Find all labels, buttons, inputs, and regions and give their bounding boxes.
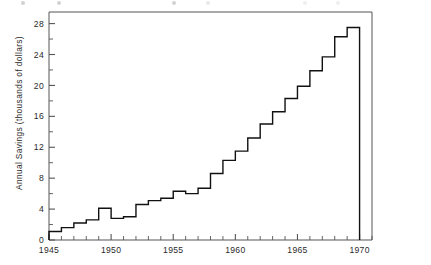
x-axis-ticks: 194519501955196019651970 [39, 234, 372, 255]
y-axis-ticks: 0481216202428 [34, 19, 55, 245]
y-tick-label: 4 [39, 204, 44, 214]
axes-frame [49, 12, 372, 240]
x-tick-label: 1945 [39, 245, 59, 255]
x-tick-label: 1950 [101, 245, 121, 255]
y-tick-label: 8 [39, 173, 44, 183]
x-tick-label: 1960 [225, 245, 245, 255]
y-tick-label: 24 [34, 50, 44, 60]
y-tick-label: 20 [34, 81, 44, 91]
y-tick-label: 12 [34, 142, 44, 152]
x-tick-label: 1965 [287, 245, 307, 255]
x-tick-label: 1970 [349, 245, 369, 255]
annual-savings-figure: Annual Savings (thousands of dollars) 19… [0, 0, 431, 265]
y-tick-label: 0 [39, 235, 44, 245]
x-tick-label: 1955 [163, 245, 183, 255]
chart-plot-area: 1945195019551960196519700481216202428 [0, 0, 431, 265]
y-tick-label: 28 [34, 19, 44, 29]
step-series-annual-savings [49, 27, 360, 240]
y-tick-label: 16 [34, 111, 44, 121]
